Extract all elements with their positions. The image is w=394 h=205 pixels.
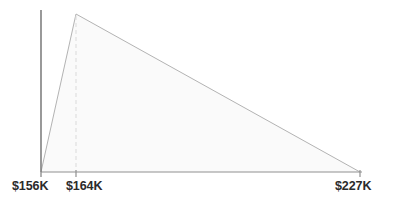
triangular-density-area — [41, 14, 360, 172]
chart-plot-area — [0, 0, 394, 205]
triangular-distribution-chart: $156K $164K $227K — [0, 0, 394, 205]
x-axis-tick-label-min: $156K — [12, 180, 48, 193]
x-axis-tick-label-mode: $164K — [66, 180, 102, 193]
x-axis-tick-label-max: $227K — [335, 180, 371, 193]
